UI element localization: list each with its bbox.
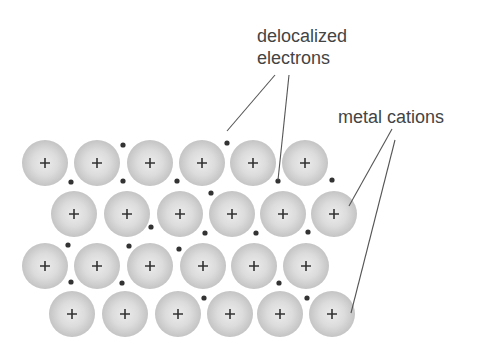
metal-cation — [207, 291, 253, 337]
electron-dot — [68, 179, 73, 184]
metal-cation — [127, 140, 173, 186]
metal-cation — [51, 191, 97, 237]
electron-dot — [68, 279, 73, 284]
metal-cation — [283, 243, 329, 289]
electron-dot — [176, 246, 181, 251]
electron-dot — [305, 229, 310, 234]
label-delocalized-line1: delocalized — [257, 26, 347, 47]
metal-cation — [102, 291, 148, 337]
metal-cation — [127, 243, 173, 289]
metal-cation — [104, 191, 150, 237]
metal-cations-group — [22, 140, 357, 337]
label-electrons-line2: electrons — [257, 48, 330, 69]
electron-dot — [120, 142, 125, 147]
metal-cation — [231, 243, 277, 289]
metal-cation — [74, 140, 120, 186]
lattice-drawing — [0, 0, 480, 349]
metal-cation — [22, 140, 68, 186]
metal-cation — [260, 191, 306, 237]
electron-dot — [224, 140, 229, 145]
electron-dot — [174, 178, 179, 183]
electron-dot — [119, 280, 124, 285]
electron-dot — [126, 243, 131, 248]
metal-cation — [74, 243, 120, 289]
metal-cation — [22, 243, 68, 289]
metal-cation — [311, 191, 357, 237]
electron-dot — [120, 178, 125, 183]
leader-line-cation — [351, 140, 395, 313]
metal-cation — [209, 191, 255, 237]
metal-cation — [49, 291, 95, 337]
electron-dot — [201, 295, 206, 300]
electron-dot — [329, 177, 334, 182]
metal-cation — [257, 291, 303, 337]
metal-cation — [180, 243, 226, 289]
metal-cation — [155, 291, 201, 337]
electron-dot — [65, 242, 70, 247]
electron-dot — [148, 224, 153, 229]
electron-dot — [253, 230, 258, 235]
leader-line-cation — [349, 129, 392, 206]
metal-cation — [282, 140, 328, 186]
metallic-bonding-diagram: delocalized electrons metal cations — [0, 0, 480, 349]
metal-cation — [157, 191, 203, 237]
metal-cation — [230, 140, 276, 186]
metal-cation — [309, 291, 355, 337]
metal-cation — [179, 140, 225, 186]
electron-dot — [276, 280, 281, 285]
leader-line-electron — [227, 75, 275, 131]
label-metal-cations: metal cations — [338, 107, 444, 128]
electron-dot — [202, 230, 207, 235]
electron-dot — [208, 190, 213, 195]
electron-dot — [304, 295, 309, 300]
